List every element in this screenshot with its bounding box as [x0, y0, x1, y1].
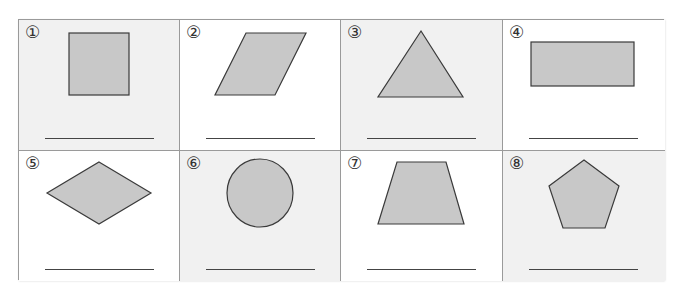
cell-3: ③	[341, 20, 503, 151]
pentagon-shape	[503, 151, 665, 281]
cell-2: ②	[180, 20, 341, 151]
rectangle-shape	[503, 20, 665, 151]
answer-line[interactable]	[45, 269, 154, 270]
trapezoid-shape	[341, 151, 503, 281]
answer-line[interactable]	[45, 138, 154, 139]
cell-1: ①	[19, 20, 180, 151]
cell-7: ⑦	[341, 151, 503, 281]
cell-6: ⑥	[180, 151, 341, 281]
cell-5: ⑤	[19, 151, 180, 281]
answer-line[interactable]	[206, 269, 315, 270]
cell-4: ④	[503, 20, 665, 151]
rhombus-shape	[19, 151, 180, 281]
answer-line[interactable]	[367, 269, 476, 270]
shapes-worksheet-grid: ① ② ③ ④ ⑤ ⑥	[18, 19, 664, 280]
circle-shape	[180, 151, 341, 281]
parallelogram-shape	[180, 20, 341, 151]
answer-line[interactable]	[529, 138, 638, 139]
answer-line[interactable]	[529, 269, 638, 270]
cell-8: ⑧	[503, 151, 665, 281]
answer-line[interactable]	[206, 138, 315, 139]
square-shape	[19, 20, 180, 151]
triangle-shape	[341, 20, 503, 151]
answer-line[interactable]	[367, 138, 476, 139]
